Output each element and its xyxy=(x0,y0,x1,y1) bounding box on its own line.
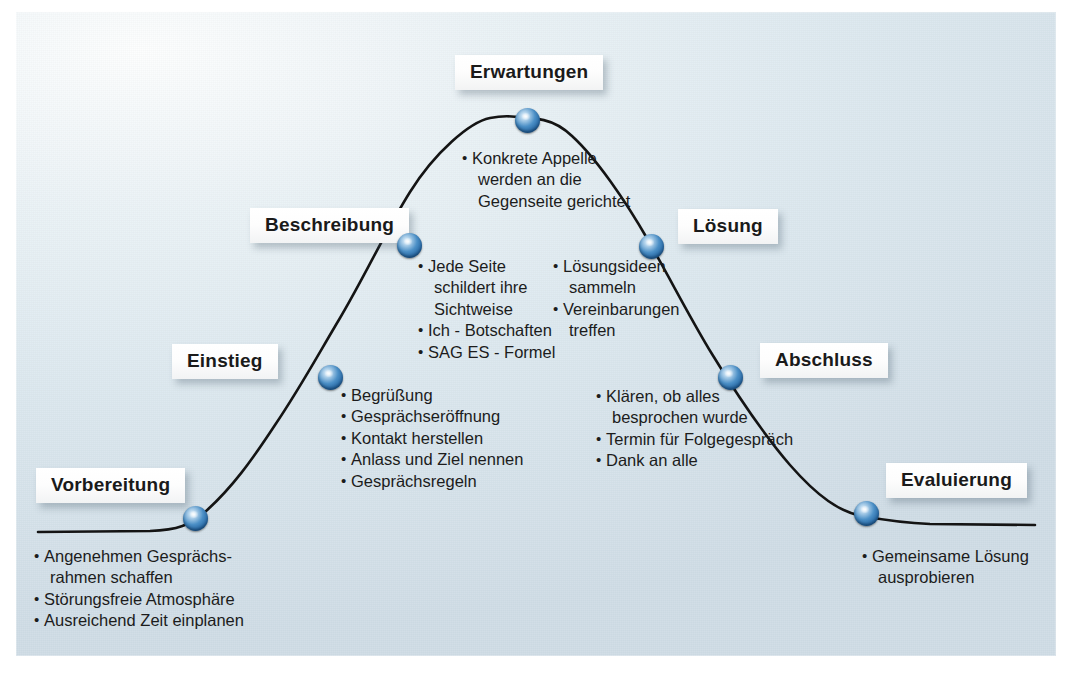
stage-label-abschluss[interactable]: Abschluss xyxy=(760,343,888,378)
stage-node-vorbereitung[interactable] xyxy=(183,506,208,531)
list-item: ausprobieren xyxy=(862,567,1029,588)
stage-bullets-abschluss: Klären, ob alles besprochen wurde Termin… xyxy=(596,386,793,472)
list-item: besprochen wurde xyxy=(596,407,793,428)
stage-label-text: Erwartungen xyxy=(470,61,588,82)
list-item: Jede Seite xyxy=(418,256,555,277)
list-item: Kontakt herstellen xyxy=(341,428,523,449)
list-item: SAG ES - Formel xyxy=(418,342,555,363)
list-item: Dank an alle xyxy=(596,450,793,471)
stage-label-text: Einstieg xyxy=(187,350,263,371)
stage-label-loesung[interactable]: Lösung xyxy=(678,209,778,244)
stage-node-beschreibung[interactable] xyxy=(397,233,422,258)
stage-bullets-erwartungen: Konkrete Appelle werden an die Gegenseit… xyxy=(462,148,630,212)
stage-label-text: Abschluss xyxy=(775,349,873,370)
stage-bullets-vorbereitung: Angenehmen Gesprächs- rahmen schaffen St… xyxy=(34,546,244,632)
stage-label-text: Lösung xyxy=(693,215,763,236)
stage-node-einstieg[interactable] xyxy=(318,365,343,390)
list-item: Angenehmen Gesprächs- xyxy=(34,546,244,567)
stage-bullets-einstieg: Begrüßung Gesprächseröffnung Kontakt her… xyxy=(341,385,523,492)
list-item: treffen xyxy=(553,320,680,341)
list-item: Gegenseite gerichtet xyxy=(462,191,630,212)
list-item: Gemeinsame Lösung xyxy=(862,546,1029,567)
list-item: werden an die xyxy=(462,169,630,190)
list-item: Gesprächseröffnung xyxy=(341,406,523,427)
list-item: schildert ihre xyxy=(418,277,555,298)
stage-label-erwartungen[interactable]: Erwartungen xyxy=(455,55,603,90)
list-item: Klären, ob alles xyxy=(596,386,793,407)
stage-label-text: Evaluierung xyxy=(901,469,1012,490)
stage-label-text: Beschreibung xyxy=(265,214,394,235)
list-item: Vereinbarungen xyxy=(553,299,680,320)
stage-label-evaluierung[interactable]: Evaluierung xyxy=(886,463,1027,498)
stage-node-erwartungen[interactable] xyxy=(515,108,540,133)
stage-label-text: Vorbereitung xyxy=(51,474,170,495)
list-item: Gesprächsregeln xyxy=(341,471,523,492)
list-item: Begrüßung xyxy=(341,385,523,406)
stage-label-einstieg[interactable]: Einstieg xyxy=(172,344,278,379)
list-item: Ausreichend Zeit einplanen xyxy=(34,610,244,631)
list-item: Konkrete Appelle xyxy=(462,148,630,169)
stage-label-beschreibung[interactable]: Beschreibung xyxy=(250,208,409,243)
stage-node-evaluierung[interactable] xyxy=(854,501,879,526)
stage-bullets-beschreibung: Jede Seite schildert ihre Sichtweise Ich… xyxy=(418,256,555,363)
list-item: Anlass und Ziel nennen xyxy=(341,449,523,470)
list-item: Lösungsideen xyxy=(553,256,680,277)
list-item: sammeln xyxy=(553,277,680,298)
list-item: Störungsfreie Atmosphäre xyxy=(34,589,244,610)
diagram-canvas: Vorbereitung Angenehmen Gesprächs- rahme… xyxy=(0,0,1071,680)
list-item: Ich - Botschaften xyxy=(418,320,555,341)
stage-bullets-loesung: Lösungsideen sammeln Vereinbarungen tref… xyxy=(553,256,680,342)
list-item: rahmen schaffen xyxy=(34,567,244,588)
stage-label-vorbereitung[interactable]: Vorbereitung xyxy=(36,468,185,503)
stage-bullets-evaluierung: Gemeinsame Lösung ausprobieren xyxy=(862,546,1029,589)
list-item: Termin für Folgegespräch xyxy=(596,429,793,450)
list-item: Sichtweise xyxy=(418,299,555,320)
